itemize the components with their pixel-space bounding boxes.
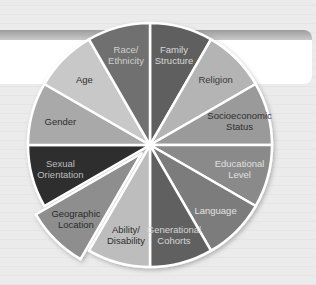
segment-label-ability-disability: Ability/Disability (107, 224, 145, 246)
segment-label-religion: Religion (198, 74, 232, 85)
segment-label-language: Language (194, 205, 236, 216)
segment-label-gender: Gender (45, 116, 77, 127)
segment-label-age: Age (76, 74, 93, 85)
segment-label-geographic-location: GeographicLocation (51, 208, 100, 230)
diversity-wheel: FamilyStructureReligionSocioeconomicStat… (0, 0, 316, 285)
segment-label-family-structure: FamilyStructure (155, 44, 194, 66)
